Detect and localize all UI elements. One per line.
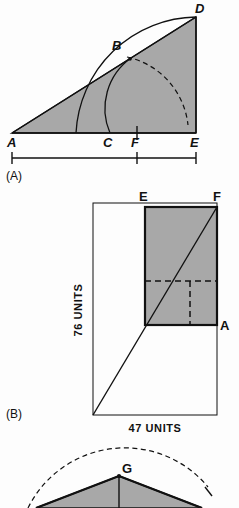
width-dimension-label: 47 UNITS [128, 422, 181, 434]
label-g-panel-c: G [122, 461, 132, 476]
geometry-figure: A B C D E F (A) [0, 0, 239, 508]
panel-label-b: (B) [6, 407, 22, 421]
figure-root: A B C D E F (A) [0, 0, 239, 508]
label-b-panel-a: B [112, 38, 121, 53]
point-b-marker [128, 57, 132, 61]
label-f-panel-a: F [131, 135, 140, 150]
label-a-panel-a: A [6, 135, 16, 150]
point-g-marker [117, 474, 121, 478]
label-e-panel-b: E [139, 189, 148, 204]
label-d-panel-a: D [195, 1, 205, 16]
arc-end-tick-right [205, 487, 212, 496]
scalebar-panel-a [12, 152, 196, 164]
label-c-panel-a: C [103, 135, 113, 150]
panel-a: A B C D E F (A) [6, 1, 205, 183]
label-f-panel-b: F [213, 189, 221, 204]
label-e-panel-a: E [190, 135, 199, 150]
panel-c: G [28, 448, 212, 508]
panel-label-a: (A) [6, 169, 22, 183]
panel-b: E F A 76 UNITS 47 UNITS (B) [6, 189, 230, 434]
label-a-panel-b: A [220, 318, 230, 333]
height-dimension-label: 76 UNITS [72, 283, 84, 336]
